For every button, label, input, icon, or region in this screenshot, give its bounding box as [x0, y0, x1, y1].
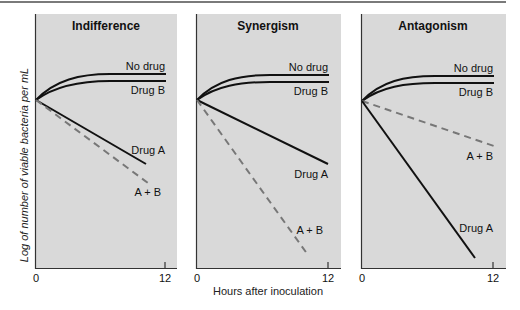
panel-synergism: Synergism No drug Drug B Drug A A + B 0 … [194, 14, 341, 284]
x-tick-label-0: 0 [33, 272, 39, 284]
panel-antagonism: Antagonism No drug Drug B A + B Drug A 0… [359, 14, 506, 284]
label-drug-a: Drug A [294, 168, 328, 180]
label-no-drug: No drug [454, 62, 493, 74]
panel-indifference: Indifference No drug Drug B Drug A A + B… [33, 14, 177, 284]
panel-title: Synergism [237, 19, 298, 33]
label-a-plus-b: A + B [466, 150, 493, 162]
x-tick-label-0: 0 [359, 272, 365, 284]
label-no-drug: No drug [289, 61, 328, 73]
label-drug-a: Drug A [459, 222, 493, 234]
label-drug-b: Drug B [294, 85, 328, 97]
panel-title: Indifference [72, 19, 140, 33]
label-a-plus-b: A + B [296, 224, 323, 236]
chart-canvas: Indifference No drug Drug B Drug A A + B… [0, 0, 520, 310]
label-no-drug: No drug [126, 60, 165, 72]
label-drug-b: Drug B [459, 86, 493, 98]
x-tick-label-12: 12 [487, 272, 499, 284]
label-drug-a: Drug A [131, 144, 165, 156]
x-tick-label-12: 12 [159, 272, 171, 284]
label-a-plus-b: A + B [134, 186, 161, 198]
x-tick-label-12: 12 [322, 272, 334, 284]
panel-title: Antagonism [398, 19, 467, 33]
label-drug-b: Drug B [131, 84, 165, 96]
x-tick-label-0: 0 [194, 272, 200, 284]
